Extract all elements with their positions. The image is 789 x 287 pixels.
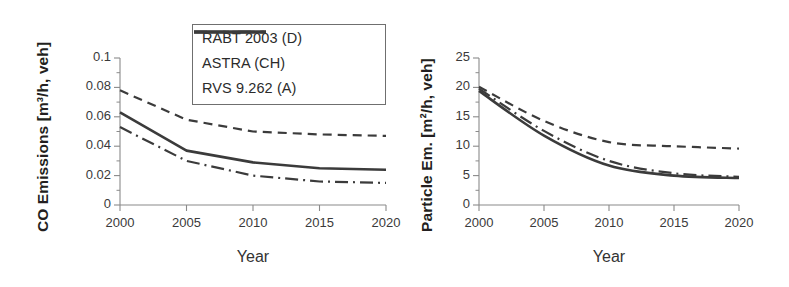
y-tick-label: 10 [456, 137, 470, 152]
chart-legend: RABT 2003 (D) ASTRA (CH) RVS 9.262 (A) [192, 24, 386, 105]
emissions-figure: CO Emissions [m³/h, veh] Year RABT 2003 … [0, 0, 789, 287]
x-axis-title-particle: Year [479, 248, 739, 266]
legend-label-astra: ASTRA (CH) [202, 55, 285, 71]
series-line [120, 112, 386, 169]
y-tick-label: 0.08 [86, 78, 111, 93]
y-tick-label: 0.1 [93, 49, 111, 64]
chart-panel-particle: Particle Em. [m²/h, veh] Year 0510152025… [394, 0, 789, 287]
x-tick-label: 2015 [290, 215, 350, 230]
y-tick-label: 0 [104, 196, 111, 211]
legend-swatch-dashed [193, 25, 267, 39]
y-tick-label: 0.06 [86, 108, 111, 123]
chart-panel-co: CO Emissions [m³/h, veh] Year RABT 2003 … [0, 0, 394, 287]
x-tick-label: 2000 [449, 215, 509, 230]
y-tick-label: 0 [463, 196, 470, 211]
y-tick-label: 0.04 [86, 137, 111, 152]
series-line [479, 91, 739, 178]
x-tick-label: 2010 [223, 215, 283, 230]
x-tick-label: 2005 [157, 215, 217, 230]
y-tick-label: 5 [463, 167, 470, 182]
x-tick-label: 2020 [709, 215, 769, 230]
legend-item-rvs: RVS 9.262 (A) [193, 75, 385, 100]
x-tick-label: 2000 [90, 215, 150, 230]
y-tick-label: 15 [456, 108, 470, 123]
x-tick-label: 2005 [514, 215, 574, 230]
y-tick-label: 0.02 [86, 167, 111, 182]
legend-label-rvs: RVS 9.262 (A) [202, 80, 297, 96]
y-tick-label: 25 [456, 49, 470, 64]
chart-plot-particle [394, 0, 789, 287]
y-tick-label: 20 [456, 78, 470, 93]
x-tick-label: 2015 [644, 215, 704, 230]
x-axis-title-co: Year [120, 248, 386, 266]
legend-item-astra: ASTRA (CH) [193, 50, 385, 75]
series-line [479, 89, 739, 177]
x-tick-label: 2010 [579, 215, 639, 230]
